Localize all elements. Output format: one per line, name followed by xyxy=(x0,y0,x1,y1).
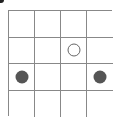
filled-stone-icon xyxy=(94,70,107,83)
board-cell[interactable] xyxy=(61,64,87,91)
board-cell[interactable] xyxy=(35,11,61,38)
board-cell[interactable] xyxy=(9,91,35,118)
board-cell[interactable] xyxy=(87,38,113,65)
board-cell[interactable] xyxy=(9,11,35,38)
board-cell[interactable] xyxy=(87,11,113,38)
filled-stone-icon xyxy=(15,70,28,83)
board-cell[interactable] xyxy=(61,11,87,38)
game-board xyxy=(8,10,112,116)
board-cell[interactable] xyxy=(9,64,35,91)
board-cell[interactable] xyxy=(9,38,35,65)
board-cell[interactable] xyxy=(61,38,87,65)
board-cell[interactable] xyxy=(35,64,61,91)
board-cell[interactable] xyxy=(61,91,87,118)
corner-mark xyxy=(0,0,4,3)
hollow-stone-icon xyxy=(67,44,80,57)
board-cell[interactable] xyxy=(35,91,61,118)
board-cell[interactable] xyxy=(35,38,61,65)
board-cell[interactable] xyxy=(87,91,113,118)
board-cell[interactable] xyxy=(87,64,113,91)
